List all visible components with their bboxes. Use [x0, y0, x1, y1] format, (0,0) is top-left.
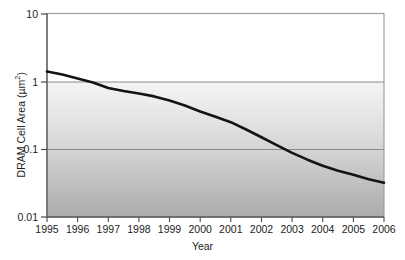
x-axis-ticks [47, 217, 384, 222]
x-tick-label-1995: 1995 [35, 224, 58, 235]
x-tick-label-2000: 2000 [189, 224, 212, 235]
x-tick-label-1999: 1999 [158, 224, 181, 235]
dram-cell-area-chart: 10 1 0.1 0.01 1995 1996 1997 1998 1999 2… [0, 0, 405, 260]
y-axis-label: DRAM Cell Area (µm2) [13, 45, 27, 205]
y-axis-label-exponent: 2 [13, 76, 22, 80]
x-tick-label-1997: 1997 [97, 224, 120, 235]
x-tick-label-2005: 2005 [342, 224, 365, 235]
x-tick-label-1998: 1998 [127, 224, 150, 235]
chart-plot-area [0, 0, 405, 260]
y-tick-label-10: 10 [5, 9, 38, 20]
x-tick-label-2006: 2006 [372, 224, 395, 235]
x-axis-label: Year [0, 240, 405, 252]
y-axis-ticks [41, 14, 47, 217]
x-tick-label-1996: 1996 [66, 224, 89, 235]
y-axis-label-base: DRAM Cell Area (µm [15, 80, 27, 178]
x-tick-label-2003: 2003 [280, 224, 303, 235]
x-tick-label-2002: 2002 [250, 224, 273, 235]
y-axis-label-tail: ) [15, 72, 27, 76]
plot-background-upper [47, 14, 384, 83]
x-tick-label-2001: 2001 [219, 224, 242, 235]
y-tick-label-0.01: 0.01 [5, 212, 38, 223]
x-tick-label-2004: 2004 [311, 224, 334, 235]
